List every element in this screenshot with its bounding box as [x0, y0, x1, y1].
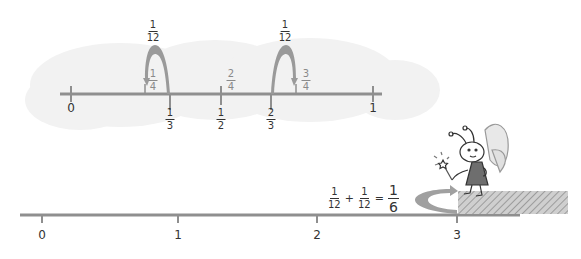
jump-label-left: 112 — [147, 20, 160, 43]
fraction-equation: 112 + 112 = 16 — [328, 183, 399, 214]
bottom-tick-label-2: 2 — [313, 228, 321, 242]
bottom-tick-label-3: 3 — [453, 228, 461, 242]
tick-label-two-quarters: 24 — [227, 69, 236, 92]
tick-label-1: 1 — [369, 101, 377, 115]
fraction-number-line-diagram: 0 13 12 23 1 14 24 34 112 112 0 1 2 3 11… — [0, 0, 581, 259]
bottom-tick-label-0: 0 — [38, 228, 46, 242]
tick-label-one-third: 13 — [166, 108, 175, 131]
tick-label-three-quarters: 34 — [302, 69, 311, 92]
hatched-region — [458, 191, 568, 214]
bottom-tick-label-1: 1 — [174, 228, 182, 242]
tick-label-two-thirds: 23 — [267, 108, 276, 131]
bottom-number-line — [20, 215, 520, 223]
fairy-character — [434, 124, 508, 196]
equation-result: 16 — [388, 183, 399, 214]
equation-term-1: 112 — [328, 187, 341, 210]
curved-arrow — [415, 185, 458, 214]
equals-sign: = — [375, 192, 384, 205]
jump-label-right: 112 — [279, 20, 292, 43]
tick-label-one-half: 12 — [217, 108, 226, 131]
equation-term-2: 112 — [358, 187, 371, 210]
tick-label-one-quarter: 14 — [149, 69, 158, 92]
tick-label-0: 0 — [67, 101, 75, 115]
plus-sign: + — [345, 192, 354, 205]
